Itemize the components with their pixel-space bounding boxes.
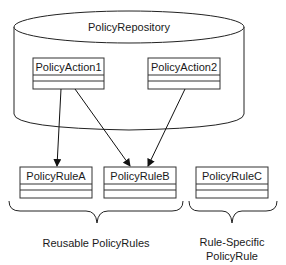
reusable-group-label: Reusable PolicyRules bbox=[43, 237, 150, 249]
policy-ruleB-label: PolicyRuleB bbox=[110, 170, 169, 182]
rule-specific-group-label-line2: PolicyRule bbox=[206, 250, 258, 262]
arrow-action1-to-ruleB bbox=[75, 89, 130, 166]
arrow-action1-to-ruleA bbox=[57, 89, 61, 166]
arrow-action2-to-ruleB bbox=[148, 89, 185, 166]
policy-diagram: PolicyRepository PolicyAction1 PolicyAct… bbox=[0, 0, 286, 265]
rule-specific-group-brace bbox=[189, 201, 277, 223]
policy-ruleC-label: PolicyRuleC bbox=[202, 170, 262, 182]
rule-specific-group-label-line1: Rule-Specific bbox=[200, 236, 265, 248]
policy-action1-box[interactable]: PolicyAction1 bbox=[33, 58, 104, 89]
reusable-group-brace bbox=[9, 201, 183, 223]
policy-action1-label: PolicyAction1 bbox=[35, 61, 101, 73]
policy-ruleB-box[interactable]: PolicyRuleB bbox=[104, 167, 176, 198]
policy-action2-label: PolicyAction2 bbox=[151, 61, 217, 73]
policy-ruleC-box[interactable]: PolicyRuleC bbox=[196, 167, 268, 198]
policy-ruleA-box[interactable]: PolicyRuleA bbox=[20, 167, 92, 198]
policy-action2-box[interactable]: PolicyAction2 bbox=[148, 58, 220, 89]
repository-label: PolicyRepository bbox=[88, 21, 170, 33]
policy-ruleA-label: PolicyRuleA bbox=[26, 170, 86, 182]
